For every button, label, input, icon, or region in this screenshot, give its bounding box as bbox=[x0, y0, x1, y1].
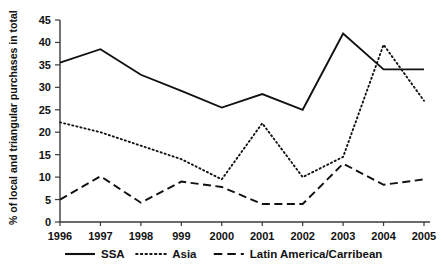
line-chart-figure: % of local and triangular purchases in t… bbox=[0, 0, 442, 279]
x-axis-tick-labels: 199619971998999200020012002200320042005 bbox=[48, 230, 436, 242]
legend-item: Latin America/Carribean bbox=[214, 248, 383, 260]
y-axis-tick-labels: 051015202530354045 bbox=[39, 14, 51, 228]
y-tick-label: 20 bbox=[39, 126, 51, 138]
series-line-ssa bbox=[60, 33, 424, 109]
x-tick-label: 2005 bbox=[412, 230, 436, 242]
x-tick-label: 999 bbox=[172, 230, 190, 242]
y-tick-label: 0 bbox=[45, 216, 51, 228]
series-line-latin-america-carribean bbox=[60, 164, 424, 204]
legend-label: Latin America/Carribean bbox=[250, 248, 383, 260]
y-tick-label: 15 bbox=[39, 149, 51, 161]
y-tick-label: 40 bbox=[39, 36, 51, 48]
y-tick-label: 35 bbox=[39, 59, 51, 71]
x-tick-label: 1997 bbox=[88, 230, 112, 242]
y-tick-label: 5 bbox=[45, 194, 51, 206]
x-tick-label: 2000 bbox=[210, 230, 234, 242]
legend-label: SSA bbox=[101, 248, 125, 260]
x-tick-label: 2004 bbox=[371, 230, 396, 242]
legend-item: SSA bbox=[65, 248, 125, 260]
y-tick-label: 25 bbox=[39, 104, 51, 116]
y-tick-label: 30 bbox=[39, 81, 51, 93]
x-tick-label: 1998 bbox=[129, 230, 153, 242]
legend-item: Asia bbox=[136, 248, 197, 260]
legend-label: Asia bbox=[172, 248, 197, 260]
series-line-asia bbox=[60, 45, 424, 180]
y-axis-title: % of local and triangular purchases in t… bbox=[7, 10, 19, 225]
chart-legend: SSAAsiaLatin America/Carribean bbox=[65, 248, 382, 260]
x-tick-label: 2002 bbox=[290, 230, 314, 242]
chart-canvas: % of local and triangular purchases in t… bbox=[0, 0, 442, 279]
y-tick-label: 45 bbox=[39, 14, 51, 26]
x-tick-label: 1996 bbox=[48, 230, 72, 242]
y-tick-label: 10 bbox=[39, 171, 51, 183]
y-axis-tick-marks bbox=[55, 20, 60, 222]
x-tick-label: 2001 bbox=[250, 230, 274, 242]
x-tick-label: 2003 bbox=[331, 230, 355, 242]
